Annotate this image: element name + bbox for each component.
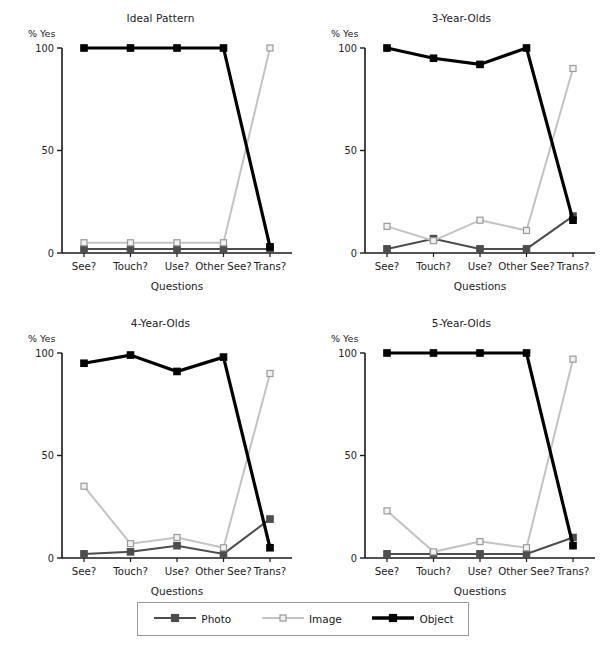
svg-text:100: 100	[338, 348, 357, 359]
x-axis-label: Questions	[62, 280, 292, 292]
series-line-object	[387, 48, 573, 220]
data-point	[523, 45, 529, 51]
plot-area: 050100See?Touch?Use?Other See?Trans?	[0, 305, 303, 605]
svg-text:100: 100	[338, 43, 357, 54]
data-point	[220, 551, 226, 557]
series-line-object	[84, 48, 270, 247]
svg-text:Trans?: Trans?	[556, 261, 589, 272]
svg-text:See?: See?	[375, 261, 399, 272]
svg-text:Use?: Use?	[165, 261, 189, 272]
svg-text:See?: See?	[375, 566, 399, 577]
data-point	[81, 551, 87, 557]
svg-text:See?: See?	[72, 261, 96, 272]
data-point	[477, 61, 483, 67]
data-point	[81, 45, 87, 51]
data-point	[430, 350, 436, 356]
svg-text:See?: See?	[72, 566, 96, 577]
svg-text:0: 0	[48, 248, 54, 259]
data-point	[81, 483, 87, 489]
y-axis-label: % Yes	[331, 333, 358, 344]
data-point	[81, 246, 87, 252]
legend-item-object: Object	[370, 610, 453, 629]
data-point	[267, 545, 273, 551]
data-point	[384, 508, 390, 514]
data-point	[267, 45, 273, 51]
data-point	[523, 350, 529, 356]
data-point	[174, 368, 180, 374]
chart-legend: Photo Image Object	[137, 602, 469, 636]
data-point	[267, 516, 273, 522]
chart-panel-5-year-olds: 050100See?Touch?Use?Other See?Trans? 5-Y…	[303, 305, 606, 605]
series-line-image	[387, 69, 573, 241]
plot-area: 050100See?Touch?Use?Other See?Trans?	[303, 0, 606, 300]
legend-item-photo: Photo	[152, 610, 231, 629]
data-point	[127, 352, 133, 358]
legend-swatch-object	[370, 610, 416, 629]
y-axis-label: % Yes	[28, 28, 55, 39]
data-point	[267, 371, 273, 377]
data-point	[221, 545, 227, 551]
data-point	[523, 246, 529, 252]
data-point	[477, 217, 483, 223]
data-point	[220, 354, 226, 360]
svg-text:Use?: Use?	[468, 261, 492, 272]
svg-text:Trans?: Trans?	[556, 566, 589, 577]
series-line-image	[387, 359, 573, 552]
svg-text:Other See?: Other See?	[498, 261, 555, 272]
y-axis-label: % Yes	[331, 28, 358, 39]
data-point	[384, 45, 390, 51]
series-line-image	[84, 48, 270, 243]
data-point	[221, 240, 227, 246]
svg-text:0: 0	[48, 553, 54, 564]
series-line-object	[387, 353, 573, 546]
data-point	[174, 535, 180, 541]
data-point	[524, 545, 530, 551]
svg-text:Touch?: Touch?	[112, 261, 148, 272]
svg-text:50: 50	[42, 450, 54, 461]
svg-text:50: 50	[345, 450, 357, 461]
data-point	[128, 541, 134, 547]
svg-text:Trans?: Trans?	[253, 261, 286, 272]
svg-text:50: 50	[42, 145, 54, 156]
data-point	[220, 45, 226, 51]
data-point	[174, 240, 180, 246]
legend-swatch-image	[260, 610, 306, 629]
data-point	[174, 45, 180, 51]
svg-text:100: 100	[35, 43, 54, 54]
data-point	[127, 549, 133, 555]
svg-text:Touch?: Touch?	[415, 261, 451, 272]
data-point	[570, 543, 576, 549]
data-point	[570, 66, 576, 72]
data-point	[523, 551, 529, 557]
legend-label: Image	[309, 613, 342, 625]
data-point	[128, 240, 134, 246]
legend-item-image: Image	[260, 610, 342, 629]
svg-text:Use?: Use?	[468, 566, 492, 577]
svg-text:Trans?: Trans?	[253, 566, 286, 577]
plot-area: 050100See?Touch?Use?Other See?Trans?	[303, 305, 606, 605]
x-axis-label: Questions	[365, 280, 595, 292]
svg-text:Other See?: Other See?	[195, 566, 252, 577]
svg-text:Other See?: Other See?	[195, 261, 252, 272]
legend-label: Object	[419, 613, 453, 625]
plot-area: 050100See?Touch?Use?Other See?Trans?	[0, 0, 303, 300]
panel-title: Ideal Pattern	[0, 12, 303, 24]
data-point	[431, 549, 437, 555]
data-point	[570, 356, 576, 362]
svg-text:100: 100	[35, 348, 54, 359]
panel-title: 4-Year-Olds	[0, 317, 303, 329]
data-point	[81, 240, 87, 246]
data-point	[127, 45, 133, 51]
svg-text:0: 0	[351, 553, 357, 564]
data-point	[174, 543, 180, 549]
x-axis-label: Questions	[62, 585, 292, 597]
data-point	[81, 360, 87, 366]
data-point	[174, 246, 180, 252]
data-point	[384, 246, 390, 252]
legend-label: Photo	[201, 613, 231, 625]
data-point	[477, 246, 483, 252]
y-axis-label: % Yes	[28, 333, 55, 344]
data-point	[384, 551, 390, 557]
svg-text:Use?: Use?	[165, 566, 189, 577]
data-point	[220, 246, 226, 252]
